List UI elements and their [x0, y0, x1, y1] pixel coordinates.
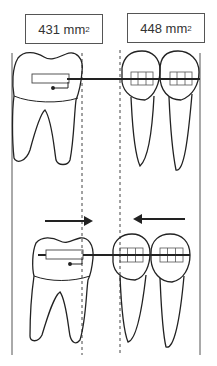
molar-hook: [52, 87, 55, 90]
top-molar: [13, 53, 83, 165]
molar-tube: [32, 74, 69, 83]
bottom-molar: [30, 238, 93, 343]
tooth-diagram: [0, 0, 217, 366]
molar-hook: [69, 263, 72, 266]
molar-tube: [46, 250, 83, 259]
arrow-left-icon: [133, 214, 185, 224]
bottom-premolar-2: [151, 234, 190, 347]
bottom-premolar-1: [113, 234, 150, 342]
top-premolar-1: [122, 51, 160, 166]
top-premolar-2: [160, 51, 199, 170]
arrow-right-icon: [45, 216, 93, 226]
